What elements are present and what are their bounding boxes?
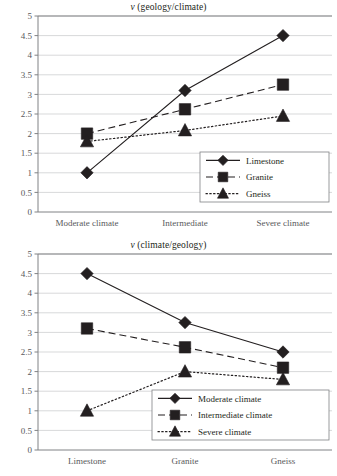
x-tick-label: Limestone [68, 456, 106, 466]
plot-area-climate-geology: 00.511.522.533.544.55LimestoneGraniteGne… [0, 238, 337, 476]
chart-svg-geology-climate: 00.511.522.533.544.55Moderate climateInt… [0, 0, 337, 238]
data-point-marker [80, 404, 93, 416]
data-point-marker [277, 29, 289, 41]
plot-area-geology-climate: 00.511.522.533.544.55Moderate climateInt… [0, 0, 337, 238]
y-tick-label: 1 [28, 168, 33, 178]
y-tick-label: 1.5 [21, 386, 33, 396]
x-tick-label: Intermediate [162, 218, 207, 228]
y-tick-label: 0.5 [21, 188, 33, 198]
data-point-marker [179, 104, 190, 115]
legend-label: Granite [246, 172, 273, 182]
y-tick-label: 0 [28, 207, 33, 217]
chart-legend: Moderate climateIntermediate climateSeve… [152, 390, 329, 440]
y-tick-label: 2.5 [21, 109, 33, 119]
x-tick-label: Severe climate [256, 218, 309, 228]
legend-label: Moderate climate [198, 394, 261, 404]
data-point-marker [277, 79, 288, 90]
y-tick-label: 3.5 [21, 308, 33, 318]
legend-label: Intermediate climate [198, 410, 272, 420]
y-tick-label: 4 [28, 288, 33, 298]
y-tick-label: 4.5 [21, 31, 33, 41]
y-tick-label: 5 [28, 249, 33, 259]
legend-label: Severe climate [198, 427, 251, 437]
x-tick-label: Granite [172, 456, 199, 466]
y-tick-label: 3.5 [21, 70, 33, 80]
y-tick-label: 3 [28, 328, 33, 338]
y-tick-label: 2.5 [21, 347, 33, 357]
legend-marker-square [218, 172, 228, 182]
figure-geology-climate: ν (geology/climate) 00.511.522.533.544.5… [0, 0, 337, 238]
legend-label: Limestone [246, 156, 284, 166]
y-tick-label: 1 [28, 406, 33, 416]
data-point-marker [179, 342, 190, 353]
chart-legend: LimestoneGraniteGneiss [200, 152, 329, 202]
x-tick-label: Moderate climate [55, 218, 118, 228]
y-tick-label: 2 [28, 367, 33, 377]
y-tick-label: 4.5 [21, 269, 33, 279]
data-point-marker [276, 109, 289, 121]
x-tick-label: Gneiss [271, 456, 296, 466]
y-tick-label: 0 [28, 445, 33, 455]
y-tick-label: 4 [28, 50, 33, 60]
data-point-marker [277, 362, 288, 373]
legend-label: Gneiss [246, 189, 271, 199]
data-point-marker [81, 267, 93, 279]
figure-climate-geology: ν (climate/geology) 00.511.522.533.544.5… [0, 238, 337, 476]
chart-svg-climate-geology: 00.511.522.533.544.55LimestoneGraniteGne… [0, 238, 337, 476]
y-tick-label: 5 [28, 11, 33, 21]
y-tick-label: 1.5 [21, 148, 33, 158]
y-tick-label: 0.5 [21, 426, 33, 436]
data-point-marker [178, 365, 191, 377]
data-point-marker [179, 316, 191, 328]
legend-marker-square [170, 410, 180, 420]
data-point-marker [81, 323, 92, 334]
y-tick-label: 2 [28, 129, 33, 139]
y-tick-label: 3 [28, 90, 33, 100]
data-point-marker [277, 346, 289, 358]
